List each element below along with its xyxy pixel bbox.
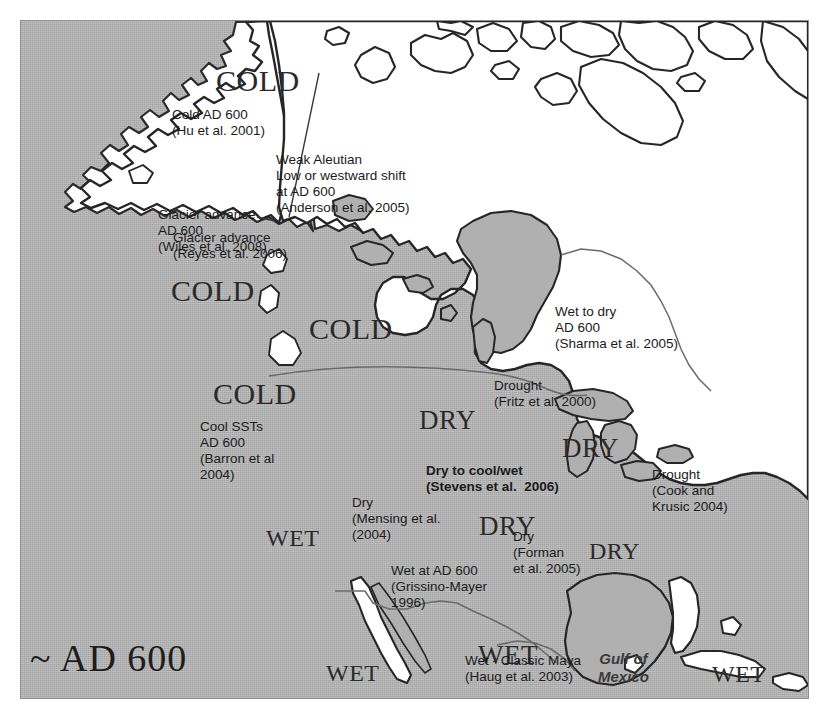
water-label-gulf-of-mexico: Gulf of Mexico: [598, 650, 649, 685]
citation-barron-2004: Cool SSTs AD 600 (Barron et al 2004): [200, 419, 274, 483]
island-small-north-1: [325, 27, 349, 45]
citation-anderson-2005: Weak Aleutian Low or westward shift at A…: [276, 152, 410, 216]
lake-ontario: [657, 445, 693, 463]
climate-label-wet-caribbean: WET: [712, 660, 765, 688]
map-frame: COLD COLD COLD COLD DRY DRY DRY DRY WET …: [20, 20, 809, 699]
climate-label-dry-upper-midwest: DRY: [562, 433, 619, 465]
citation-forman-2005: Dry (Forman et al. 2005): [513, 529, 581, 577]
citation-grissino-mayer-1996: Wet at AD 600 (Grissino-Mayer 1996): [391, 563, 487, 611]
citation-reyes-2006: Glacier advance (Reyes et al. 2006): [173, 230, 287, 262]
paleoclimate-map-figure: COLD COLD COLD COLD DRY DRY DRY DRY WET …: [0, 0, 832, 721]
citation-stevens-2006: Dry to cool/wet (Stevens et al. 2006): [426, 463, 559, 495]
climate-label-wet-california: WET: [266, 524, 319, 552]
citation-haug-2003: Wet - Classic Maya (Haug et al. 2003): [465, 653, 581, 685]
climate-label-cold-pnw: COLD: [213, 376, 297, 411]
climate-label-wet-baja: WET: [326, 659, 379, 687]
climate-label-cold-alaska-north: COLD: [216, 63, 300, 98]
era-label: ~ AD 600: [30, 636, 187, 681]
citation-fritz-2000: Drought (Fritz et al. 2000): [494, 378, 596, 410]
citation-mensing-2004: Dry (Mensing et al. (2004): [352, 495, 441, 543]
climate-label-dry-northern-plains: DRY: [419, 405, 476, 437]
climate-label-dry-southern-plains: DRY: [589, 537, 640, 565]
citation-cook-krusic-2004: Drought (Cook and Krusic 2004): [652, 467, 728, 515]
citation-hu-2001: Cold AD 600 (Hu et al. 2001): [172, 107, 265, 139]
citation-sharma-2005: Wet to dry AD 600 (Sharma et al. 2005): [555, 304, 678, 352]
climate-label-cold-gulf-alaska: COLD: [171, 273, 255, 308]
climate-label-cold-bc: COLD: [309, 311, 393, 346]
